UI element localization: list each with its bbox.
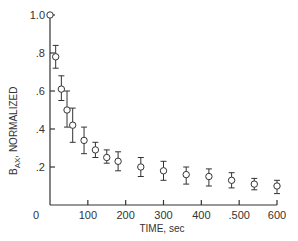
open-circle-marker	[81, 137, 87, 143]
open-circle-marker	[160, 168, 166, 174]
y-tick-label: .8	[36, 47, 45, 59]
y-tick-label: 1.0	[30, 9, 45, 21]
open-circle-marker	[104, 154, 110, 160]
data-point	[104, 150, 110, 163]
y-axis-title-rest: , NORMALIZED	[8, 87, 19, 158]
x-ticks: 0100200300400.500600	[33, 200, 286, 221]
data-point	[92, 142, 98, 157]
y-ticks: .2.4.6.81.0	[30, 9, 55, 173]
y-tick-label: .2	[36, 161, 45, 173]
open-circle-marker	[47, 12, 53, 18]
y-axis-title-subscript: AX	[13, 157, 22, 168]
data-point	[81, 127, 87, 154]
data-point	[47, 12, 53, 18]
data-point	[70, 108, 76, 142]
data-point	[274, 180, 280, 193]
open-circle-marker	[52, 54, 58, 60]
open-circle-marker	[70, 122, 76, 128]
x-tick-label: 100	[79, 209, 97, 221]
open-circle-marker	[183, 171, 189, 177]
x-tick-label: 200	[116, 209, 134, 221]
open-circle-marker	[64, 107, 70, 113]
chart: 0100200300400.500600 .2.4.6.81.0 TIME, s…	[0, 0, 298, 241]
data-points	[47, 12, 280, 194]
data-point	[183, 167, 189, 184]
x-axis-title: TIME, sec	[139, 223, 184, 234]
y-tick-label: .6	[36, 85, 45, 97]
data-point	[58, 76, 64, 101]
data-point	[138, 158, 144, 177]
data-point	[64, 91, 70, 127]
data-point	[52, 45, 58, 68]
open-circle-marker	[138, 164, 144, 170]
y-axis-title: BAX, NORMALIZED	[8, 87, 22, 175]
open-circle-marker	[58, 86, 64, 92]
x-tick-label: .500	[228, 209, 249, 221]
data-point	[206, 169, 212, 186]
data-point	[160, 161, 166, 180]
x-tick-label: 600	[268, 209, 286, 221]
x-tick-label: 300	[154, 209, 172, 221]
open-circle-marker	[251, 181, 257, 187]
open-circle-marker	[206, 173, 212, 179]
data-point	[115, 152, 121, 171]
open-circle-marker	[228, 177, 234, 183]
data-point	[228, 173, 234, 188]
data-point	[251, 178, 257, 189]
x-tick-label: 400	[192, 209, 210, 221]
y-tick-label: .4	[36, 123, 45, 135]
open-circle-marker	[115, 158, 121, 164]
x-tick-label: 0	[33, 209, 39, 221]
open-circle-marker	[274, 183, 280, 189]
open-circle-marker	[92, 147, 98, 153]
